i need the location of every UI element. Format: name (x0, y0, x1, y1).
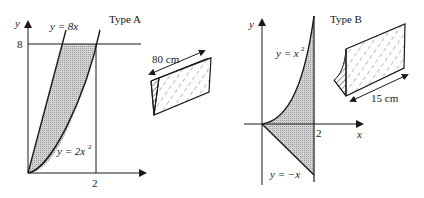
title-type-a: Type A (109, 13, 141, 25)
label-y-8x: y = 8x (49, 20, 78, 32)
title-type-b: Type B (330, 13, 362, 25)
trough-a-illustration: 80 cm (150, 51, 211, 115)
x-axis-label-b: x (356, 128, 362, 140)
diagram-type-a: y 8 2 y = 8x Type A y = 2x 2 80 cm (14, 13, 211, 189)
dimension-label-a: 80 cm (152, 53, 180, 65)
shaded-region-b (262, 16, 314, 175)
y-tick-8: 8 (17, 38, 23, 50)
svg-text:2: 2 (301, 45, 305, 53)
svg-text:2: 2 (88, 143, 92, 151)
y-axis-label-b: y (248, 18, 254, 30)
label-y-2x2: y = 2x 2 (56, 143, 92, 157)
diagram-type-b: y x 2 Type B y = x 2 y = −x 15 cm (244, 13, 407, 185)
label-y-neg-x: y = −x (269, 168, 300, 180)
label-y-x2: y = x 2 (275, 45, 305, 59)
diagram-canvas: y 8 2 y = 8x Type A y = 2x 2 80 cm (0, 0, 424, 198)
x-tick-2-a: 2 (92, 177, 98, 189)
svg-text:y = 2x: y = 2x (56, 145, 85, 157)
x-tick-2-b: 2 (316, 127, 322, 139)
y-axis-label-a: y (14, 17, 20, 29)
trough-b-illustration: 15 cm (334, 24, 407, 104)
dimension-label-b: 15 cm (371, 92, 399, 104)
svg-text:y = x: y = x (275, 47, 299, 59)
